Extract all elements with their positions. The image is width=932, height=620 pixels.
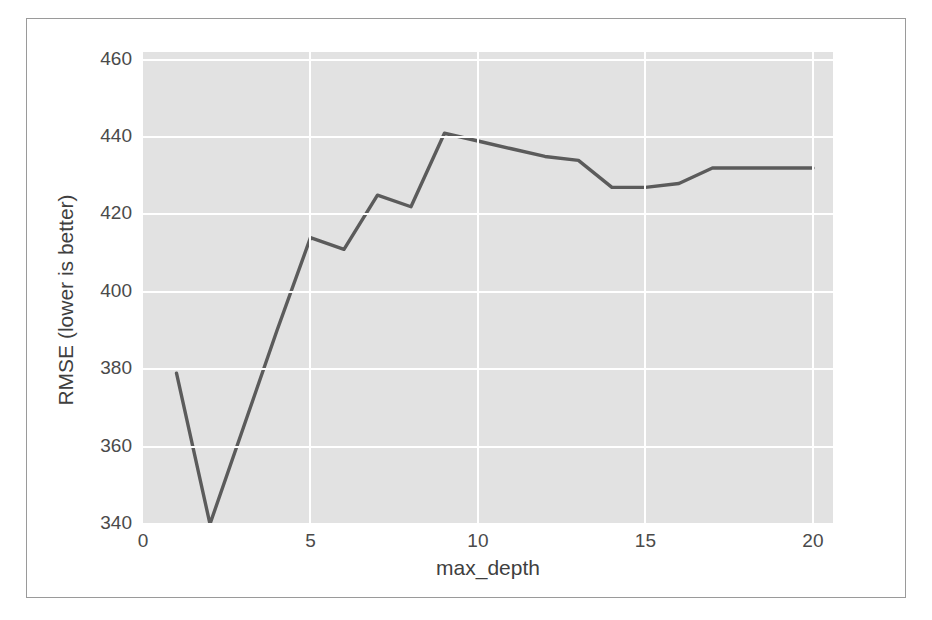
y-axis-title: RMSE (lower is better)	[54, 130, 78, 470]
data-series-line	[143, 52, 833, 524]
gridline-vertical	[644, 52, 646, 524]
x-axis-title: max_depth	[143, 556, 833, 580]
x-tick-label: 5	[280, 530, 340, 552]
y-tick-label: 460	[84, 48, 132, 70]
y-tick-label: 400	[84, 280, 132, 302]
gridline-horizontal	[143, 446, 833, 448]
gridline-vertical	[477, 52, 479, 524]
y-tick-label: 380	[84, 357, 132, 379]
gridline-horizontal	[143, 368, 833, 370]
gridline-horizontal	[143, 213, 833, 215]
x-tick-label: 20	[783, 530, 843, 552]
chart-figure: 340360380400420440460 RMSE (lower is bet…	[0, 0, 932, 620]
y-tick-label: 420	[84, 202, 132, 224]
gridline-horizontal	[143, 136, 833, 138]
gridline-vertical	[812, 52, 814, 524]
gridline-horizontal	[143, 291, 833, 293]
y-tick-label: 360	[84, 435, 132, 457]
gridline-vertical	[309, 52, 311, 524]
y-axis-tick-labels: 340360380400420440460	[80, 0, 132, 620]
gridline-horizontal	[143, 59, 833, 61]
plot-area	[143, 52, 833, 524]
gridline-horizontal	[143, 523, 833, 524]
y-tick-label: 440	[84, 125, 132, 147]
x-tick-label: 15	[615, 530, 675, 552]
x-tick-label: 10	[448, 530, 508, 552]
x-tick-label: 0	[113, 530, 173, 552]
